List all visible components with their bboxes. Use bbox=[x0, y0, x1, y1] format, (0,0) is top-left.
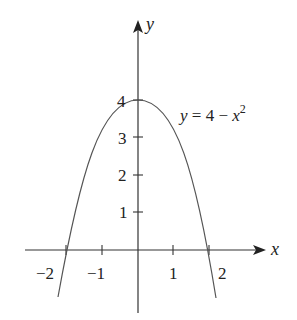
x-axis-label: x bbox=[270, 239, 279, 259]
parabola-chart: −2 −1 1 2 1 2 3 4 x y y = 4 − x2 bbox=[0, 0, 297, 320]
y-tick-label-1: 1 bbox=[119, 203, 128, 222]
y-axis-label: y bbox=[144, 14, 154, 34]
x-tick-label-2: 2 bbox=[218, 264, 227, 283]
x-tick-label-neg2: −2 bbox=[36, 264, 54, 283]
x-tick-label-neg1: −1 bbox=[87, 264, 105, 283]
parabola-curve bbox=[58, 100, 216, 298]
y-tick-label-3: 3 bbox=[118, 129, 127, 148]
y-tick-label-4: 4 bbox=[117, 92, 126, 111]
x-tick-label-1: 1 bbox=[169, 264, 178, 283]
equation-exponent: 2 bbox=[240, 102, 246, 116]
equation-label: y = 4 − x2 bbox=[178, 102, 246, 125]
y-tick-label-2: 2 bbox=[118, 166, 127, 185]
